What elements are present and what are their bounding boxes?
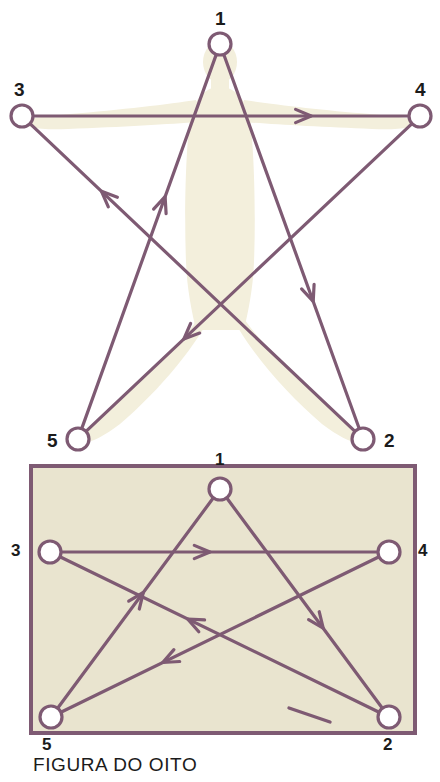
node-5[interactable] — [40, 706, 62, 728]
node-3[interactable] — [39, 541, 61, 563]
rect-panel: 12345 — [0, 450, 440, 740]
node-1[interactable] — [209, 33, 231, 55]
node-1[interactable] — [209, 478, 231, 500]
node-label-3: 3 — [14, 80, 25, 99]
panel-rectangle — [31, 466, 415, 733]
node-4[interactable] — [378, 541, 400, 563]
node-2[interactable] — [352, 428, 374, 450]
star-panel-svg — [0, 0, 440, 458]
node-label-5: 5 — [42, 736, 51, 753]
human-silhouette — [22, 41, 418, 443]
node-label-4: 4 — [415, 80, 426, 99]
node-2[interactable] — [378, 706, 400, 728]
node-label-2: 2 — [383, 736, 392, 753]
node-label-2: 2 — [384, 431, 395, 450]
node-label-1: 1 — [215, 451, 224, 468]
node-3[interactable] — [11, 105, 33, 127]
rect-panel-svg — [0, 450, 440, 750]
star-panel: 12345 — [0, 0, 440, 458]
node-label-4: 4 — [418, 542, 427, 559]
figure-caption: FIGURA DO OITO — [33, 754, 197, 776]
figure-page: 12345 12345 FIGURA DO OITO — [0, 0, 440, 782]
node-label-3: 3 — [11, 542, 20, 559]
node-4[interactable] — [409, 105, 431, 127]
panel-frame — [31, 466, 415, 733]
node-label-1: 1 — [215, 9, 226, 28]
node-5[interactable] — [67, 428, 89, 450]
node-label-5: 5 — [47, 431, 58, 450]
